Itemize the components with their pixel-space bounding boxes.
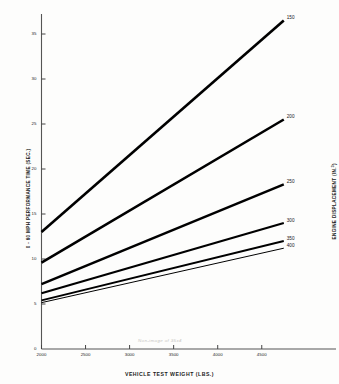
x-tick-label: 2000 [29,352,55,357]
series-end-label-400: 400 [287,243,295,248]
curves-group [42,21,284,303]
series-line-350 [42,241,284,300]
y-tick-label: 30 [21,76,37,81]
x-tick-label: 2500 [73,352,99,357]
y-tick-label: 35 [21,31,37,36]
y-tick-label: 5 [21,301,37,306]
y-tick-label: 20 [21,166,37,171]
series-end-label-350: 350 [287,236,295,241]
x-tick-label: 3500 [161,352,187,357]
chart-figure: 0 - 60 MPH PERFORMANCE TIME (SEC.) ENGIN… [0,0,339,384]
y-tick-label: 10 [21,256,37,261]
series-line-200 [42,120,284,263]
x-tick-label: 4000 [205,352,231,357]
series-end-label-250: 250 [287,179,295,184]
y-tick-label: 25 [21,121,37,126]
series-line-400 [42,248,284,302]
x-tick-label: 3000 [117,352,143,357]
series-end-label-200: 200 [287,114,295,119]
series-end-label-300: 300 [287,218,295,223]
series-end-label-150: 150 [287,15,295,20]
y-tick-label: 15 [21,211,37,216]
plot-area [0,0,339,384]
x-tick-label: 4500 [249,352,275,357]
